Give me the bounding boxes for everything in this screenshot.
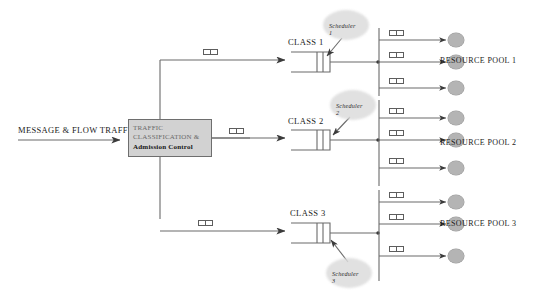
- packet-icon: [198, 220, 213, 226]
- packet-icon: [389, 246, 404, 252]
- classifier-line-1: TRAFFIC: [133, 124, 163, 132]
- packet-icon: [389, 30, 404, 36]
- input-traffic-label: MESSAGE & FLOW TRAFFIC: [18, 126, 137, 135]
- resource-node: [448, 161, 464, 175]
- resource-pool-label-1: RESOURCE POOL 1: [440, 57, 516, 65]
- classifier-line-3: Admission Control: [133, 143, 193, 151]
- packet-icon: [389, 192, 404, 198]
- class-label-1: CLASS 1: [288, 38, 324, 47]
- packet-icon: [389, 52, 404, 58]
- packet-icon: [389, 78, 404, 84]
- resource-pool-label-2: RESOURCE POOL 2: [440, 139, 516, 147]
- traffic-classification-box: TRAFFIC CLASSIFICATION & Admission Contr…: [128, 119, 212, 157]
- resource-node: [448, 33, 464, 47]
- resource-node: [448, 111, 464, 125]
- class-label-3: CLASS 3: [290, 209, 326, 218]
- class-label-2: CLASS 2: [288, 117, 324, 126]
- diagram-canvas: MESSAGE & FLOW TRAFFIC TRAFFIC CLASSIFIC…: [0, 0, 533, 291]
- packet-icon: [389, 158, 404, 164]
- packet-icon: [389, 214, 404, 220]
- scheduler-label-1: Scheduler 1: [329, 22, 356, 36]
- resource-node: [448, 249, 464, 263]
- packet-icon: [203, 49, 218, 55]
- classifier-line-2: CLASSIFICATION &: [133, 133, 199, 141]
- resource-node: [448, 195, 464, 209]
- packet-icon: [389, 130, 404, 136]
- packet-icon: [389, 108, 404, 114]
- resource-node: [448, 81, 464, 95]
- scheduler-label-3: Scheduler 3: [332, 270, 359, 284]
- scheduler-label-2: Scheduler 2: [336, 102, 363, 116]
- resource-pool-label-3: RESOURCE POOL 3: [440, 220, 516, 228]
- packet-icon: [229, 128, 244, 134]
